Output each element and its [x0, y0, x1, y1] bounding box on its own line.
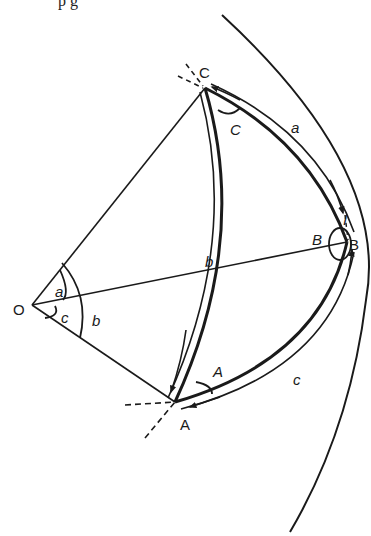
- vertex-label-C: C: [199, 64, 210, 81]
- angle-arc-O-c: [45, 306, 56, 318]
- tangent-dash-A2: [145, 402, 175, 438]
- angle-label-C: C: [230, 121, 241, 138]
- cut-off-text: p g: [58, 0, 78, 10]
- vertex-label-A: A: [180, 416, 190, 433]
- angle-label-B: B: [312, 231, 322, 248]
- vertex-label-B: B: [349, 236, 359, 253]
- side-label-b: b: [205, 253, 213, 270]
- angle-arc-C: [218, 108, 240, 114]
- center-angle-label-b: b: [92, 312, 100, 329]
- radius-OA: [32, 305, 175, 402]
- sphere-outline-arc: [222, 15, 369, 532]
- side-label-a: a: [291, 119, 299, 136]
- radius-OC: [32, 88, 205, 305]
- spherical-triangle-diagram: p g C B A O C B A a b c a: [0, 0, 371, 536]
- side-label-c: c: [293, 371, 301, 388]
- side-a-arc-inner: [205, 88, 347, 242]
- tangent-marker-B: I: [343, 211, 347, 228]
- side-b-arc-outer: [168, 92, 214, 398]
- center-angle-label-a: a: [55, 283, 63, 300]
- angle-label-A: A: [212, 363, 223, 380]
- vertex-label-O: O: [13, 301, 25, 318]
- side-c-arrow-to-A: [190, 397, 220, 407]
- center-angle-label-c: c: [61, 309, 69, 326]
- tangent-dash-A1: [125, 402, 175, 405]
